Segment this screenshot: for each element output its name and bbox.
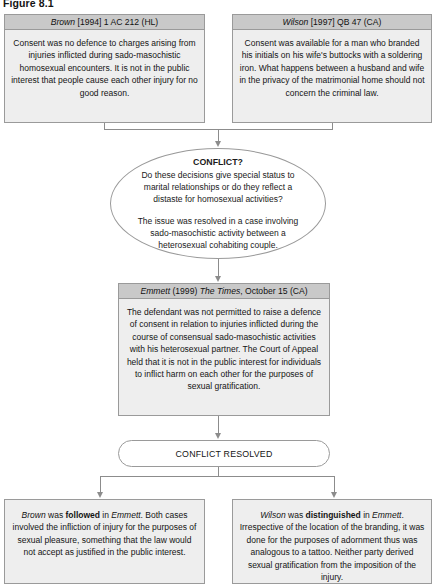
case-header-emmett: Emmett (1999) The Times, October 15 (CA) (119, 284, 329, 299)
result-emphasis-wilson: distinguished (306, 510, 361, 520)
conflict-resolved-pill: CONFLICT RESOLVED (118, 440, 330, 467)
result-lead-in-wilson: in (361, 510, 372, 520)
case-date-emmett: , October 15 (CA) (240, 286, 307, 296)
arrowhead-to-brown-result (97, 492, 103, 498)
case-year-emmett: (1999) (170, 286, 200, 296)
result-lead-end-brown: . (141, 510, 143, 520)
arrowhead-to-resolved (215, 433, 221, 439)
case-box-wilson: Wilson [1997] QB 47 (CA) Consent was ava… (232, 14, 432, 123)
case-header-brown: Brown [1994] 1 AC 212 (HL) (5, 15, 204, 30)
case-box-emmett: Emmett (1999) The Times, October 15 (CA)… (118, 283, 330, 416)
case-name-wilson: Wilson (283, 17, 309, 27)
result-lead-end-wilson: . (401, 510, 403, 520)
result-lead-in-brown: in (100, 510, 111, 520)
case-name-emmett: Emmett (140, 286, 170, 296)
result-case2-wilson: Emmett (372, 510, 401, 520)
result-lead-mid-brown: was (46, 510, 66, 520)
connector-bottom-split (100, 476, 335, 477)
connector-to-brown-result (100, 476, 101, 493)
result-body-wilson: Wilson was distinguished in Emmett. Irre… (233, 500, 431, 587)
result-text-wilson: Irrespective of the location of the bran… (240, 522, 425, 582)
result-body-brown: Brown was followed in Emmett. Both cases… (5, 500, 204, 583)
result-emphasis-brown: followed (66, 510, 100, 520)
case-citation-brown: [1994] 1 AC 212 (HL) (75, 17, 158, 27)
connector-emmett-to-resolved (218, 416, 219, 433)
conflict-resolved-label: CONFLICT RESOLVED (176, 449, 273, 459)
conflict-oval: CONFLICT? Do these decisions give specia… (110, 148, 326, 259)
case-source-emmett: The Times (200, 286, 241, 296)
case-body-emmett: The defendant was not permitted to raise… (119, 299, 329, 415)
case-body-wilson: Consent was available for a man who bran… (233, 30, 431, 122)
result-case-wilson: Wilson (260, 510, 285, 520)
case-header-wilson: Wilson [1997] QB 47 (CA) (233, 15, 431, 30)
connector-to-wilson-result (334, 476, 335, 493)
result-box-wilson: Wilson was distinguished in Emmett. Irre… (232, 499, 432, 584)
conflict-resolution-note: The issue was resolved in a case involvi… (137, 215, 299, 252)
conflict-question: Do these decisions give special status t… (137, 169, 299, 206)
case-body-brown: Consent was no defence to charges arisin… (5, 30, 204, 122)
arrowhead-to-wilson-result (331, 492, 337, 498)
result-case-brown: Brown (22, 510, 46, 520)
figure-caption: Figure 8.1 (3, 0, 54, 9)
arrowhead-to-conflict (215, 141, 221, 147)
case-box-brown: Brown [1994] 1 AC 212 (HL) Consent was n… (4, 14, 205, 123)
result-lead-mid-wilson: was (286, 510, 306, 520)
case-name-brown: Brown (51, 17, 75, 27)
result-case2-brown: Emmett (111, 510, 140, 520)
connector-conflict-to-emmett (218, 259, 219, 276)
case-citation-wilson: [1997] QB 47 (CA) (308, 17, 381, 27)
arrowhead-to-emmett (215, 276, 221, 282)
conflict-title: CONFLICT? (193, 156, 243, 168)
result-box-brown: Brown was followed in Emmett. Both cases… (4, 499, 205, 584)
